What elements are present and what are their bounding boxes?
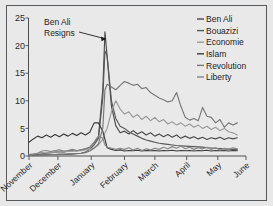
legend-label-liberty: Liberty <box>206 72 232 82</box>
y-tick-label: 10 <box>15 96 25 106</box>
y-axis-tick-labels: 0510152025 <box>15 13 25 161</box>
x-axis-tick-marks <box>29 156 246 160</box>
x-tick-label: June <box>231 160 252 180</box>
x-tick-label: March <box>136 160 160 183</box>
legend-label-economie: Economie <box>206 37 244 47</box>
y-tick-label: 15 <box>15 68 25 78</box>
y-tick-label: 5 <box>20 124 25 134</box>
legend-label-islam: Islam <box>206 49 226 59</box>
x-tick-label: April <box>173 160 192 179</box>
x-tick-label: February <box>98 160 131 191</box>
x-tick-label: May <box>205 160 224 179</box>
legend-label-revolution: Revolution <box>206 61 246 71</box>
x-axis-tick-labels: NovemberDecemberJanuaryFebruaryMarchApri… <box>0 160 252 194</box>
legend-label-ben-ali: Ben Ali <box>206 14 233 24</box>
x-tick-label: January <box>67 160 97 188</box>
annotation-line-1: Ben Ali <box>44 17 71 27</box>
line-chart: 0510152025 NovemberDecemberJanuaryFebrua… <box>0 0 273 206</box>
series-line-economie <box>29 101 237 155</box>
y-tick-label: 0 <box>20 151 25 161</box>
ben-ali-resigns-annotation: Ben Ali Resigns <box>44 17 106 41</box>
chart-figure: 0510152025 NovemberDecemberJanuaryFebrua… <box>0 0 273 206</box>
chart-legend: Ben AliBouaziziEconomieIslamRevolutionLi… <box>197 14 246 82</box>
y-tick-label: 20 <box>15 41 25 51</box>
series-line-revolution <box>29 81 237 155</box>
y-tick-label: 25 <box>15 13 25 23</box>
legend-label-bouazizi: Bouazizi <box>206 26 238 36</box>
annotation-line-2: Resigns <box>44 28 75 38</box>
x-tick-label: December <box>27 160 63 194</box>
